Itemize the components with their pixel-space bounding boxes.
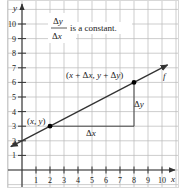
x-tick-label: 5 — [90, 176, 94, 185]
y-tick-label: 10 — [8, 20, 16, 29]
linear-function-chart: 1234567891012345678910 x y (x, y) (x + Δ… — [0, 0, 180, 189]
point-x-plus-dx — [132, 80, 137, 85]
y-tick-label: 5 — [12, 93, 16, 102]
y-tick-label: 3 — [12, 122, 16, 131]
x-axis-label: x — [170, 174, 175, 184]
svg-text:Δx: Δx — [52, 31, 62, 41]
point-label-x-y: (x, y) — [27, 116, 46, 126]
y-tick-label: 4 — [12, 108, 16, 117]
delta-y-label: Δy — [134, 99, 144, 109]
point-x-y — [48, 124, 53, 129]
svg-text:is a constant.: is a constant. — [70, 23, 117, 33]
point-label-x-plus-dx: (x + Δx, y + Δy) — [66, 70, 123, 80]
x-tick-label: 3 — [62, 176, 66, 185]
x-tick-label: 2 — [48, 176, 52, 185]
x-tick-label: 7 — [118, 176, 122, 185]
x-tick-label: 1 — [34, 176, 38, 185]
function-label-f: f — [163, 71, 167, 81]
y-tick-label: 7 — [12, 64, 16, 73]
x-tick-label: 8 — [132, 176, 136, 185]
y-tick-label: 1 — [12, 151, 16, 160]
x-tick-label: 6 — [104, 176, 108, 185]
x-tick-label: 10 — [158, 176, 166, 185]
svg-text:Δy: Δy — [53, 16, 63, 26]
y-tick-label: 9 — [12, 35, 16, 44]
y-tick-label: 6 — [12, 78, 16, 87]
y-axis-label: y — [12, 3, 17, 13]
delta-x-label: Δx — [86, 128, 96, 138]
y-tick-label: 8 — [12, 49, 16, 58]
x-tick-label: 9 — [146, 176, 150, 185]
x-tick-label: 4 — [76, 176, 80, 185]
